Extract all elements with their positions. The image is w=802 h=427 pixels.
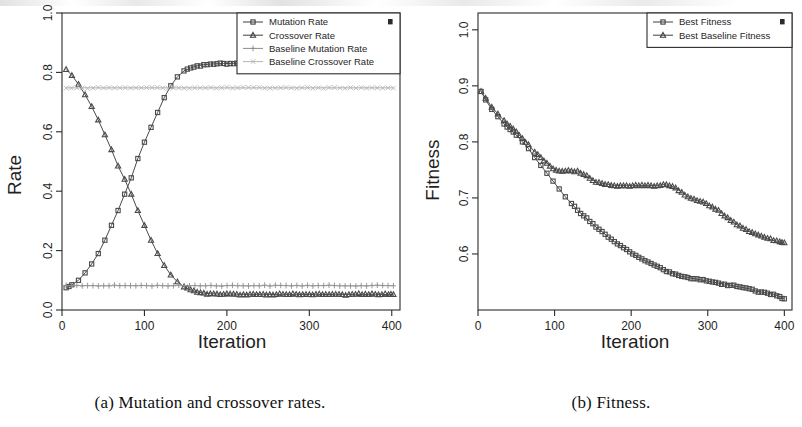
x-tick-label: 100 (545, 319, 565, 333)
legend-label: Best Fitness (679, 16, 732, 27)
data-point-plus (364, 283, 369, 289)
y-tick-label: 0.2 (41, 242, 55, 259)
data-point-plus (224, 283, 229, 289)
data-point-plus (128, 283, 133, 289)
data-point-plus (257, 283, 262, 289)
data-point-plus (149, 283, 154, 289)
data-point-triangle (330, 292, 335, 297)
legend-label: Mutation Rate (269, 16, 328, 27)
legend-marker-artifact (780, 19, 785, 24)
legend-b: Best FitnessBest Baseline Fitness (647, 13, 792, 47)
data-point-triangle (251, 291, 256, 296)
data-point-cross (85, 86, 90, 91)
data-point-plus (133, 283, 138, 289)
x-axis-label-a: Iteration (198, 331, 267, 352)
series-best-fitness (479, 89, 786, 301)
x-tick-label: 300 (698, 319, 718, 333)
data-point-triangle (290, 291, 295, 296)
x-tick-label: 400 (774, 319, 794, 333)
data-point-plus (230, 282, 235, 288)
data-point-plus (74, 282, 79, 288)
y-tick-label: 0.6 (457, 245, 471, 262)
data-point-plus (112, 282, 117, 288)
series-baseline-crossover-rate (64, 85, 396, 91)
y-tick-label: 0.8 (457, 133, 471, 150)
y-axis-ticks-a: 0.00.20.40.60.81.0 (41, 4, 62, 318)
x-tick-label: 300 (299, 319, 319, 333)
data-point-plus (176, 282, 181, 288)
legend-label: Baseline Mutation Rate (269, 43, 367, 54)
data-point-plus (375, 282, 380, 288)
data-point-plus (160, 283, 165, 289)
legend-marker-artifact (388, 19, 393, 24)
series-best-baseline-fitness (478, 89, 786, 245)
data-point-triangle (369, 291, 374, 296)
series-mutation-rate (64, 60, 395, 290)
data-point-triangle (224, 291, 229, 296)
data-point-plus (251, 283, 256, 289)
data-point-plus (106, 283, 111, 289)
data-point-plus (321, 283, 326, 289)
series-line (66, 63, 393, 288)
data-point-plus (391, 283, 396, 289)
data-point-plus (155, 282, 160, 288)
data-point-triangle (303, 292, 308, 297)
series-baseline-mutation-rate (64, 282, 396, 289)
data-point-plus (278, 282, 283, 288)
x-tick-label: 200 (621, 319, 641, 333)
data-point-plus (90, 283, 95, 289)
data-point-cross (209, 85, 214, 90)
x-tick-label: 0 (59, 319, 66, 333)
data-point-plus (144, 283, 149, 289)
data-point-cross (321, 86, 326, 91)
x-tick-label: 0 (475, 319, 482, 333)
data-point-plus (198, 283, 203, 289)
data-point-plus (80, 283, 85, 289)
y-tick-label: 0.8 (41, 64, 55, 81)
subfigure-a-caption: (a) Mutation and crossover rates. (0, 393, 420, 413)
data-point-triangle (317, 291, 322, 296)
x-axis-ticks-a: 0100200300400 (59, 310, 402, 333)
data-point-triangle (64, 67, 69, 72)
y-tick-label: 0.4 (41, 183, 55, 200)
data-point-triangle (566, 168, 571, 173)
data-point-cross (225, 85, 230, 90)
y-tick-label: 1.0 (457, 21, 471, 38)
data-point-plus (219, 283, 224, 289)
data-point-triangle (664, 182, 669, 187)
series-crossover-rate (64, 67, 396, 298)
data-point-cross (257, 85, 262, 90)
data-point-cross (155, 85, 160, 90)
data-point-plus (192, 283, 197, 289)
subfigure-a: Rate Iteration 0.00.20.40.60.81.0 010020… (0, 0, 420, 427)
x-axis-ticks-b: 0100200300400 (475, 310, 795, 333)
y-tick-label: 0.0 (41, 301, 55, 318)
data-point-plus (96, 283, 101, 289)
data-point-plus (305, 282, 310, 288)
y-axis-label-b: Fitness (422, 139, 443, 200)
legend-a: Mutation RateCrossover RateBaseline Muta… (237, 13, 400, 74)
series-line (481, 91, 784, 298)
data-point-cross (241, 85, 246, 90)
data-point-plus (348, 283, 353, 289)
figure-row: Rate Iteration 0.00.20.40.60.81.0 010020… (0, 0, 802, 427)
data-point-plus (214, 283, 219, 289)
data-point-cross (252, 85, 257, 90)
data-point-triangle (639, 182, 644, 187)
series-line (481, 91, 784, 242)
mutation-crossover-rate-chart: Rate Iteration 0.00.20.40.60.81.0 010020… (0, 0, 420, 370)
y-tick-label: 0.6 (41, 123, 55, 140)
data-point-cross (96, 85, 101, 90)
data-point-triangle (323, 292, 328, 297)
data-point-cross (214, 86, 219, 91)
data-point-plus (310, 283, 315, 289)
data-point-cross (295, 86, 300, 91)
data-point-plus (343, 283, 348, 289)
plot-frame (478, 13, 792, 310)
y-tick-label: 1.0 (41, 4, 55, 21)
data-point-plus (241, 283, 246, 289)
legend-label: Crossover Rate (269, 30, 335, 41)
x-tick-label: 400 (382, 319, 402, 333)
data-point-cross (305, 85, 310, 90)
subfigure-b: Fitness Iteration 0.60.70.80.91.0 010020… (420, 0, 802, 427)
